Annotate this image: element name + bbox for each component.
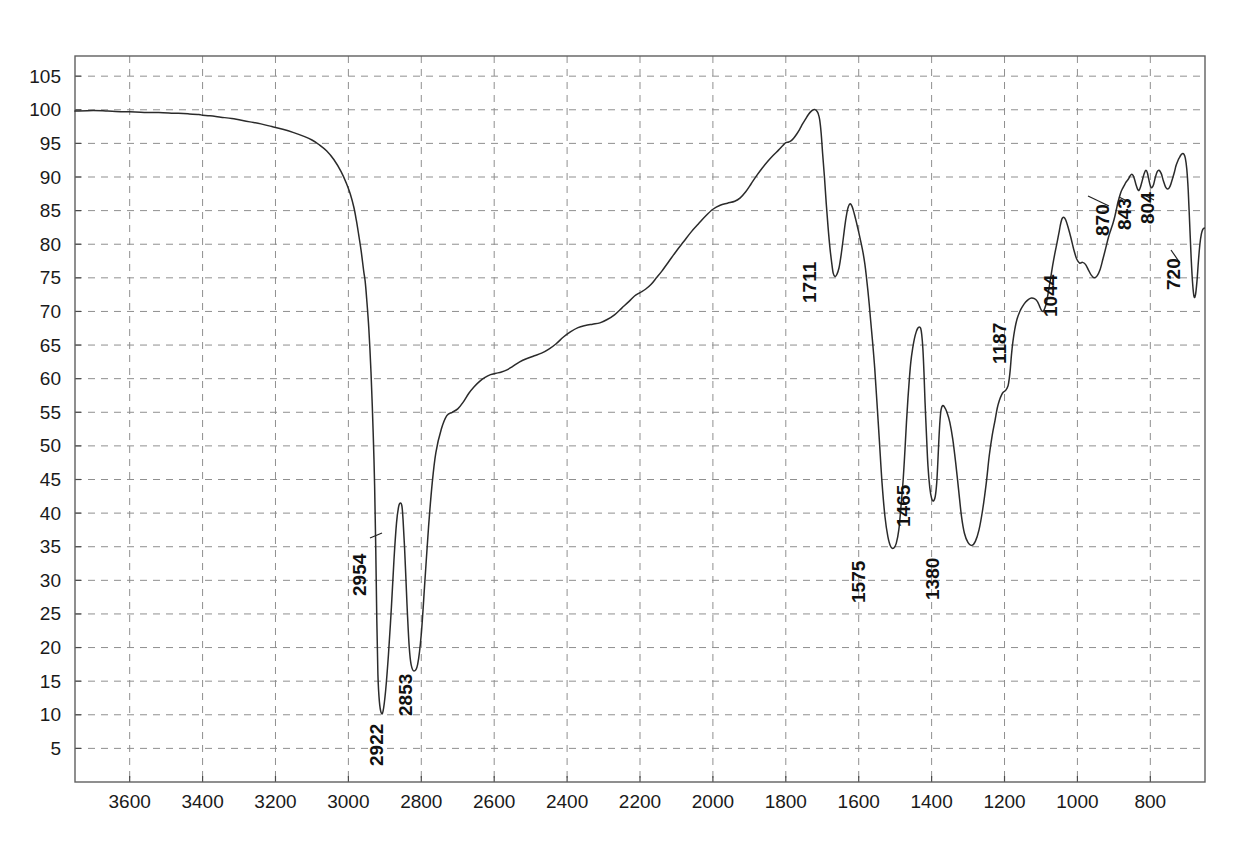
- peak-label: 2954: [349, 553, 370, 596]
- y-tick-label: 50: [40, 435, 61, 456]
- ir-spectrum-figure: 5101520253035404550556065707580859095100…: [0, 0, 1248, 849]
- peak-label: 2853: [395, 674, 416, 716]
- y-tick-label: 60: [40, 368, 61, 389]
- figure-background: [0, 0, 1248, 849]
- x-tick-label: 1200: [983, 791, 1025, 812]
- y-tick-label: 45: [40, 469, 61, 490]
- peak-label: 870: [1092, 204, 1113, 236]
- x-tick-label: 3600: [109, 791, 151, 812]
- spectrum-plot-canvas: 5101520253035404550556065707580859095100…: [0, 0, 1248, 849]
- y-tick-label: 55: [40, 402, 61, 423]
- x-tick-label: 3400: [181, 791, 223, 812]
- y-tick-label: 30: [40, 570, 61, 591]
- y-tick-label: 70: [40, 301, 61, 322]
- y-tick-label: 105: [29, 66, 61, 87]
- x-tick-label: 2000: [692, 791, 734, 812]
- x-tick-label: 1600: [838, 791, 880, 812]
- y-tick-label: 100: [29, 99, 61, 120]
- x-tick-label: 2800: [400, 791, 442, 812]
- peak-label: 804: [1137, 192, 1158, 224]
- peak-label: 1187: [989, 323, 1010, 364]
- x-tick-label: 1800: [765, 791, 807, 812]
- x-tick-label: 1400: [910, 791, 952, 812]
- x-tick-label: 1000: [1056, 791, 1098, 812]
- x-tick-label: 2400: [546, 791, 588, 812]
- peak-label: 843: [1114, 198, 1135, 230]
- x-tick-label: 2600: [473, 791, 515, 812]
- y-tick-label: 25: [40, 603, 61, 624]
- y-tick-label: 20: [40, 637, 61, 658]
- x-tick-label: 2200: [619, 791, 661, 812]
- y-tick-label: 85: [40, 200, 61, 221]
- peak-label: 1465: [893, 484, 914, 527]
- y-tick-label: 35: [40, 536, 61, 557]
- y-tick-label: 40: [40, 503, 61, 524]
- x-tick-label: 3200: [254, 791, 296, 812]
- x-tick-label: 3000: [327, 791, 369, 812]
- peak-label: 1575: [848, 560, 869, 603]
- y-tick-label: 90: [40, 167, 61, 188]
- peak-label: 720: [1163, 258, 1184, 290]
- peak-label: 2922: [366, 724, 387, 766]
- y-tick-label: 95: [40, 133, 61, 154]
- peak-label: 1380: [922, 558, 943, 600]
- y-tick-label: 15: [40, 671, 61, 692]
- x-tick-label: 800: [1134, 791, 1166, 812]
- y-tick-label: 80: [40, 234, 61, 255]
- y-tick-label: 5: [50, 738, 61, 759]
- y-tick-label: 65: [40, 335, 61, 356]
- peak-label: 1044: [1040, 274, 1061, 317]
- y-tick-label: 10: [40, 704, 61, 725]
- peak-label: 1711: [799, 261, 820, 303]
- y-tick-label: 75: [40, 267, 61, 288]
